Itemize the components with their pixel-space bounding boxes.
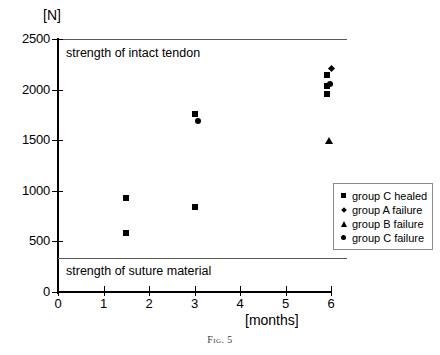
x-tick — [104, 286, 105, 296]
reference-line — [58, 39, 347, 40]
x-tick-label: 0 — [47, 297, 69, 311]
y-tick — [52, 191, 63, 192]
x-tick-label: 5 — [275, 297, 297, 311]
reference-line-label: strength of intact tendon — [66, 46, 200, 60]
legend-item: group C failure — [338, 231, 427, 244]
scatter-plot: [N] [months] strength of intact tendonst… — [0, 0, 440, 355]
legend-item-label: group C healed — [352, 190, 427, 202]
legend-item: group B failure — [338, 217, 427, 230]
y-tick — [52, 241, 63, 242]
figure-caption: Fig. 5 — [0, 334, 440, 345]
data-point-square — [324, 72, 330, 78]
y-tick-label: 2500 — [4, 32, 50, 45]
y-tick-label: 1000 — [4, 184, 50, 197]
y-tick-label: 0 — [4, 285, 50, 298]
y-axis — [57, 38, 59, 294]
y-tick — [52, 140, 63, 141]
y-tick — [52, 90, 63, 91]
reference-line — [58, 258, 347, 259]
data-point-square — [192, 111, 198, 117]
x-axis-unit-label: [months] — [245, 313, 299, 328]
circle-marker-icon — [338, 235, 349, 240]
x-tick-label: 4 — [229, 297, 251, 311]
x-tick-label: 1 — [93, 297, 115, 311]
legend: group C healedgroup A failuregroup B fai… — [333, 183, 433, 250]
data-point-square — [123, 195, 129, 201]
x-tick — [240, 286, 241, 296]
y-tick — [52, 39, 63, 40]
x-tick-label: 3 — [184, 297, 206, 311]
data-point-square — [324, 91, 330, 97]
x-tick-label: 6 — [320, 297, 342, 311]
data-point-circle — [327, 81, 333, 87]
legend-item-label: group A failure — [352, 204, 422, 216]
data-point-square — [192, 204, 198, 210]
legend-item: group C healed — [338, 189, 427, 202]
reference-line-label: strength of suture material — [66, 264, 211, 278]
y-tick-label: 1500 — [4, 133, 50, 146]
diamond-marker-icon — [338, 208, 349, 212]
x-tick — [286, 286, 287, 296]
triangle-marker-icon — [338, 221, 349, 227]
legend-item: group A failure — [338, 203, 427, 216]
x-tick-label: 2 — [138, 297, 160, 311]
data-point-triangle — [325, 137, 333, 144]
data-point-circle — [195, 118, 201, 124]
y-tick-label: 500 — [4, 234, 50, 247]
y-axis-unit-label: [N] — [43, 8, 61, 23]
square-marker-icon — [338, 193, 349, 198]
x-tick — [58, 286, 59, 296]
figure-5: [N] [months] strength of intact tendonst… — [0, 0, 440, 355]
x-tick — [331, 286, 332, 296]
legend-item-label: group C failure — [352, 232, 424, 244]
data-point-square — [123, 230, 129, 236]
legend-item-label: group B failure — [352, 218, 424, 230]
x-tick — [149, 286, 150, 296]
x-tick — [195, 286, 196, 296]
y-tick-label: 2000 — [4, 83, 50, 96]
